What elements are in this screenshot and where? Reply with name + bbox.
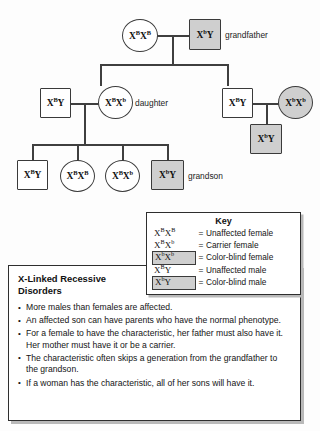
genotype-g3-cousin-son: XbY bbox=[258, 134, 275, 144]
key-equals-0: = bbox=[196, 228, 206, 240]
sibline-gen2-left bbox=[100, 64, 102, 86]
label-grandfather: grandfather bbox=[225, 30, 268, 40]
sibline-gen3-a bbox=[32, 144, 34, 161]
node-g2-wife[interactable]: XbXb bbox=[278, 86, 313, 119]
key-genotype-colorblind-female: XbXb bbox=[152, 251, 196, 265]
node-g3-grandson[interactable]: XbY bbox=[151, 160, 184, 190]
descent-line-gen2-right bbox=[266, 103, 268, 125]
key-description-unaffected-female: Unaffected female bbox=[206, 228, 295, 240]
node-g1-mother[interactable]: XBXB bbox=[122, 19, 158, 52]
sibline-gen2-right bbox=[227, 64, 229, 86]
genotype-g2-son-in-law: XBY bbox=[47, 98, 65, 108]
key-genotype-unaffected-male: XBY bbox=[152, 265, 196, 277]
label-daughter: daughter bbox=[135, 98, 168, 108]
sibship-line-gen2 bbox=[100, 64, 228, 66]
facts-item: If a woman has the characteristic, all o… bbox=[18, 378, 291, 390]
node-g1-father-grandfather[interactable]: XbY bbox=[189, 19, 221, 50]
genotype-g2-daughter: XBXb bbox=[105, 98, 126, 108]
descent-line-gen2-left bbox=[84, 103, 86, 145]
sibline-gen3-c bbox=[122, 144, 124, 161]
sibship-line-gen3 bbox=[32, 144, 168, 146]
node-g2-son-in-law[interactable]: XBY bbox=[40, 88, 71, 118]
facts-list: More males than females are affected. An… bbox=[18, 302, 291, 389]
node-g3-child-3[interactable]: XBXb bbox=[105, 160, 140, 192]
facts-item: More males than females are affected. bbox=[18, 302, 291, 314]
pedigree-chart: XBXB XbY grandfather XBY XBXb daughter X… bbox=[0, 0, 320, 210]
key-genotype-colorblind-male: XbY bbox=[152, 276, 196, 290]
node-g2-son[interactable]: XBY bbox=[222, 88, 253, 118]
key-equals-4: = bbox=[196, 277, 206, 289]
node-g3-cousin-son[interactable]: XbY bbox=[250, 124, 282, 154]
genotype-g2-wife: XbXb bbox=[285, 98, 305, 108]
key-legend-box: Key XBXB = Unaffected female XBXb = Carr… bbox=[146, 212, 301, 295]
genotype-g2-son: XBY bbox=[229, 98, 247, 108]
genotype-g3-child-2: XBXB bbox=[67, 171, 89, 181]
key-description-colorblind-female: Color-blind female bbox=[206, 252, 295, 264]
facts-item: An affected son can have parents who hav… bbox=[18, 315, 291, 327]
genotype-g3-grandson: XbY bbox=[159, 170, 176, 180]
key-description-unaffected-male: Unaffected male bbox=[206, 265, 295, 277]
key-description-colorblind-male: Color-blind male bbox=[206, 277, 295, 289]
sibline-gen3-d bbox=[167, 144, 169, 161]
key-row-colorblind-female: XbXb = Color-blind female bbox=[152, 251, 295, 265]
key-equals-2: = bbox=[196, 252, 206, 264]
key-description-carrier-female: Carrier female bbox=[206, 240, 295, 252]
label-grandson: grandson bbox=[188, 171, 223, 181]
genotype-g3-child-1: XBY bbox=[24, 170, 42, 180]
node-g2-daughter[interactable]: XBXb bbox=[98, 86, 133, 119]
key-equals-3: = bbox=[196, 265, 206, 277]
key-row-unaffected-male: XBY = Unaffected male bbox=[152, 265, 295, 277]
facts-title: X-Linked Recessive Disorders bbox=[18, 273, 138, 297]
genotype-g1-father: XbY bbox=[197, 30, 214, 40]
node-g3-child-2[interactable]: XBXB bbox=[60, 160, 95, 192]
facts-item: The characteristic often skips a generat… bbox=[18, 353, 291, 376]
mating-line-gen1 bbox=[157, 35, 190, 37]
key-row-colorblind-male: XbY = Color-blind male bbox=[152, 276, 295, 290]
genotype-g3-child-3: XBXb bbox=[112, 171, 133, 181]
pedigree-figure-page: XBXB XbY grandfather XBY XBXb daughter X… bbox=[0, 0, 320, 431]
facts-item: For a female to have the characteristic,… bbox=[18, 328, 291, 351]
key-title: Key bbox=[152, 216, 295, 226]
sibline-gen3-b bbox=[77, 144, 79, 161]
node-g3-child-1[interactable]: XBY bbox=[17, 160, 48, 190]
genotype-g1-mother: XBXB bbox=[129, 31, 151, 41]
descent-line-gen1 bbox=[172, 35, 174, 65]
key-equals-1: = bbox=[196, 240, 206, 252]
